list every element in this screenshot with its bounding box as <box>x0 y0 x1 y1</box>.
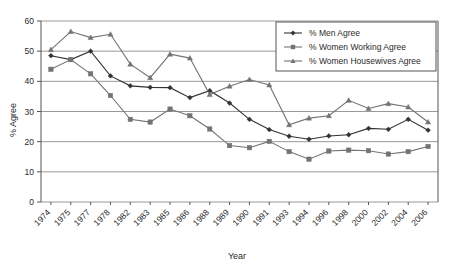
x-tick-label: 1985 <box>151 207 172 228</box>
data-point-marker <box>426 128 431 133</box>
data-point-marker <box>88 72 92 76</box>
data-point-marker <box>148 120 152 124</box>
x-tick-label: 1986 <box>171 207 192 228</box>
data-point-marker <box>108 93 112 97</box>
data-point-marker <box>386 101 391 106</box>
data-point-marker <box>346 148 350 152</box>
data-point-marker <box>426 144 430 148</box>
data-point-marker <box>128 83 133 88</box>
x-tick-label: 2002 <box>369 207 390 228</box>
x-tick-label: 1996 <box>310 207 331 228</box>
data-point-marker <box>69 57 73 61</box>
x-tick-label: 1975 <box>52 207 73 228</box>
data-point-marker <box>386 152 390 156</box>
series-square <box>49 57 431 161</box>
data-point-marker <box>326 134 331 139</box>
x-tick-label: 1982 <box>111 207 132 228</box>
x-tick-label: 1991 <box>250 207 271 228</box>
x-tick-label: 1994 <box>290 207 311 228</box>
x-tick-label: 1990 <box>230 207 251 228</box>
x-tick-label: 1993 <box>270 207 291 228</box>
x-tick-label: 2000 <box>349 207 370 228</box>
series-line <box>51 60 428 160</box>
legend-marker-square <box>291 45 295 49</box>
line-chart: 0102030405060 19741975197719781982198319… <box>0 0 449 270</box>
data-point-marker <box>108 32 113 37</box>
data-point-marker <box>167 52 172 57</box>
data-point-marker <box>307 137 312 142</box>
data-point-marker <box>188 114 192 118</box>
data-point-marker <box>346 98 351 103</box>
data-point-marker <box>267 139 271 143</box>
y-tick-label: 20 <box>25 137 35 147</box>
data-point-marker <box>247 146 251 150</box>
data-point-marker <box>307 157 311 161</box>
x-tick-label: 1998 <box>330 207 351 228</box>
data-point-marker <box>327 149 331 153</box>
x-tick-label: 1989 <box>211 207 232 228</box>
data-point-marker <box>208 127 212 131</box>
y-tick-label: 50 <box>25 46 35 56</box>
data-point-marker <box>68 29 73 34</box>
y-axis-tick-labels: 0102030405060 <box>25 16 41 207</box>
legend-label: % Women Housewives Agree <box>309 56 421 66</box>
y-tick-label: 30 <box>25 107 35 117</box>
x-axis-title: Year <box>228 251 246 261</box>
data-point-marker <box>168 107 172 111</box>
data-point-marker <box>148 85 153 90</box>
y-tick-label: 0 <box>29 197 34 207</box>
data-point-marker <box>168 85 173 90</box>
x-tick-label: 1974 <box>32 207 53 228</box>
data-point-marker <box>247 77 252 82</box>
x-tick-label: 1988 <box>191 207 212 228</box>
x-axis-tick-labels: 1974197519771978198219831985198619881989… <box>32 202 430 228</box>
data-point-marker <box>366 149 370 153</box>
x-tick-label: 2006 <box>409 207 430 228</box>
data-point-marker <box>49 53 54 58</box>
data-point-marker <box>287 134 292 139</box>
data-point-marker <box>227 143 231 147</box>
data-point-marker <box>187 95 192 100</box>
y-tick-label: 40 <box>25 76 35 86</box>
legend-label: % Men Agree <box>309 28 360 38</box>
chart-container: 0102030405060 19741975197719781982198319… <box>0 0 449 270</box>
data-point-marker <box>49 67 53 71</box>
y-tick-label: 60 <box>25 16 35 26</box>
data-point-marker <box>287 149 291 153</box>
x-tick-label: 1983 <box>131 207 152 228</box>
y-tick-label: 10 <box>25 167 35 177</box>
x-tick-label: 2004 <box>389 207 410 228</box>
data-point-marker <box>386 127 391 132</box>
legend-label: % Women Working Agree <box>309 42 406 52</box>
data-point-marker <box>366 126 371 131</box>
data-point-marker <box>406 149 410 153</box>
chart-legend: % Men Agree% Women Working Agree% Women … <box>276 22 436 71</box>
x-tick-label: 1978 <box>91 207 112 228</box>
y-axis-title: % Agree <box>8 103 18 137</box>
data-point-marker <box>128 117 132 121</box>
x-tick-label: 1977 <box>72 207 93 228</box>
data-point-marker <box>406 117 411 122</box>
data-point-marker <box>267 127 272 132</box>
data-point-marker <box>346 132 351 137</box>
